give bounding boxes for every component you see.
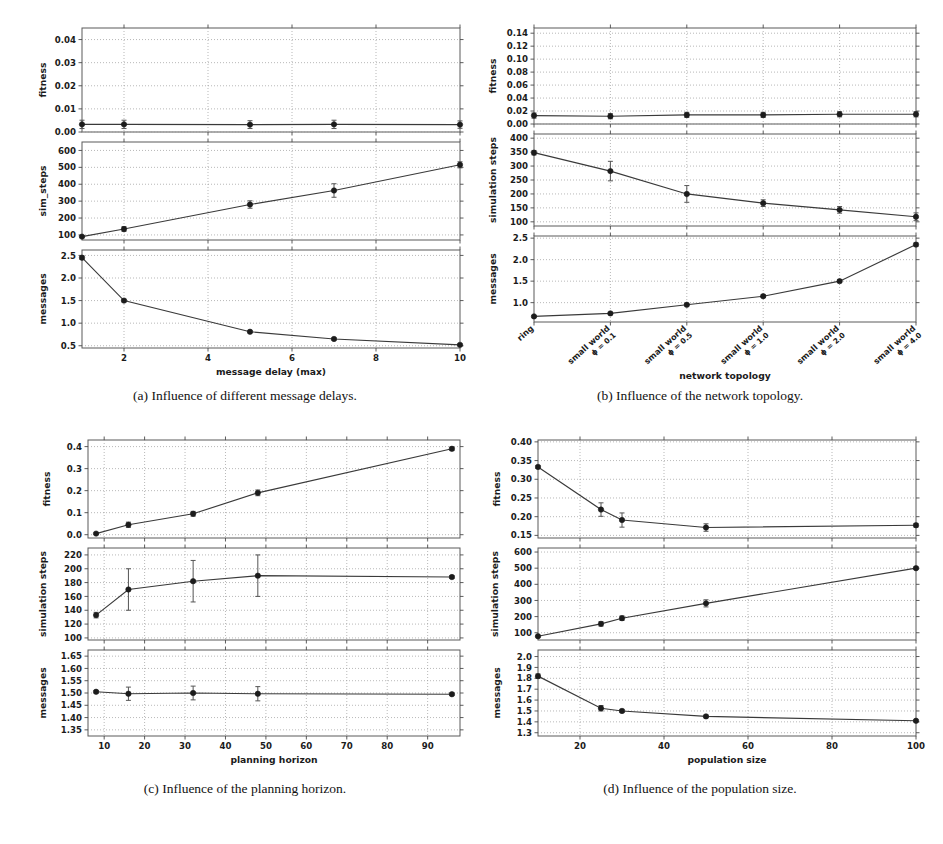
x-tick-label: 40	[658, 741, 670, 751]
y-axis-title: messages	[37, 273, 48, 325]
data-point	[619, 517, 624, 522]
data-point	[608, 114, 613, 119]
y-tick-label: 0.00	[507, 119, 528, 129]
y-tick-label: 0.12	[507, 41, 528, 51]
x-tick-label: 40	[219, 741, 231, 751]
y-tick-label: 150	[510, 203, 528, 213]
subfigure-a-caption: (a) Influence of different message delay…	[20, 388, 470, 404]
y-tick-label: 1.40	[61, 713, 82, 723]
y-tick-label: 1.5	[513, 276, 528, 286]
panel-b-fitness: 0.000.020.040.060.080.100.120.14fitness	[487, 25, 920, 130]
data-point	[535, 673, 540, 678]
y-tick-label: 600	[514, 547, 532, 557]
x-tick-label: 50	[260, 741, 272, 751]
data-point	[247, 329, 252, 334]
y-tick-label: 0.30	[511, 474, 532, 484]
y-tick-label: 0.01	[55, 104, 76, 114]
data-point	[535, 634, 540, 639]
y-tick-label: 200	[58, 213, 76, 223]
y-tick-label: 0.14	[507, 28, 528, 38]
data-point	[619, 708, 624, 713]
panel-d-fitness: 0.150.200.250.300.350.40fitness	[491, 437, 920, 542]
y-axis-title: fitness	[487, 58, 498, 93]
panel-c-messages: 1.351.401.451.501.551.601.65102030405060…	[37, 647, 464, 766]
data-point	[761, 112, 766, 117]
y-tick-label: 1.6	[517, 695, 532, 705]
y-tick-label: 300	[514, 596, 532, 606]
x-tick-label-group: ring	[515, 323, 536, 343]
y-tick-label: 0.04	[507, 93, 528, 103]
x-tick-label-group: small worldϕ = 0.1	[565, 323, 617, 373]
y-axis-title: messages	[487, 253, 498, 305]
y-tick-label: 1.60	[61, 664, 82, 674]
data-point	[79, 122, 84, 127]
x-tick-label: 20	[139, 741, 151, 751]
y-tick-label: 500	[58, 162, 76, 172]
y-tick-label: 500	[514, 563, 532, 573]
data-point	[913, 565, 918, 570]
data-point	[837, 112, 842, 117]
data-point	[703, 601, 708, 606]
x-tick-label: 4	[205, 353, 211, 363]
y-tick-label: 0.0	[67, 530, 82, 540]
x-tick-label: ring	[515, 323, 536, 343]
chart-c: 0.00.10.20.30.4fitness100120140160180200…	[20, 428, 470, 763]
y-tick-label: 1.0	[513, 298, 528, 308]
panel-d-messages: 1.31.41.51.61.71.81.92.020406080100messa…	[491, 647, 925, 766]
y-tick-label: 1.5	[61, 296, 76, 306]
y-tick-label: 350	[510, 147, 528, 157]
data-point	[837, 278, 842, 283]
data-point	[837, 207, 842, 212]
x-tick-label: 60	[742, 741, 754, 751]
y-tick-label: 100	[514, 628, 532, 638]
y-tick-label: 140	[64, 605, 82, 615]
y-tick-label: 0.2	[67, 486, 82, 496]
data-point	[93, 531, 98, 536]
y-tick-label: 100	[58, 230, 76, 240]
chart-a: 0.000.010.020.030.04fitness1002003004005…	[20, 16, 470, 366]
subfigure-b-caption: (b) Influence of the network topology.	[474, 388, 926, 404]
data-point	[598, 507, 603, 512]
data-point	[449, 692, 454, 697]
data-point	[190, 511, 195, 516]
data-point	[126, 587, 131, 592]
plot-frame	[534, 28, 916, 124]
data-point	[703, 525, 708, 530]
plot-frame	[82, 142, 460, 240]
data-point	[121, 298, 126, 303]
subfigure-c-caption: (c) Influence of the planning horizon.	[20, 781, 470, 797]
x-tick-label: 30	[179, 741, 191, 751]
y-tick-label: 400	[58, 179, 76, 189]
data-point	[703, 714, 708, 719]
y-tick-label: 0.08	[507, 67, 528, 77]
data-point	[531, 314, 536, 319]
data-point	[598, 706, 603, 711]
y-axis-title: simulation steps	[487, 137, 498, 223]
data-point	[761, 200, 766, 205]
x-tick-label: 100	[907, 741, 925, 751]
x-tick-label: 10	[454, 353, 466, 363]
data-point	[255, 490, 260, 495]
x-axis-title: network topology	[679, 370, 770, 381]
y-tick-label: 0.15	[511, 530, 532, 540]
y-tick-label: 400	[514, 579, 532, 589]
y-tick-label: 200	[64, 564, 82, 574]
x-tick-label: 80	[381, 741, 393, 751]
x-tick-label: 20	[574, 741, 586, 751]
data-point	[913, 523, 918, 528]
y-tick-label: 1.50	[61, 688, 82, 698]
panel-a-messages: 0.51.01.52.02.5246810messagesmessage del…	[37, 247, 466, 378]
data-point	[684, 302, 689, 307]
y-tick-label: 0.04	[55, 35, 76, 45]
y-tick-label: 120	[64, 619, 82, 629]
x-axis-title: population size	[687, 754, 766, 765]
panel-b-simsteps: 100150200250300350400simulation steps	[487, 131, 920, 230]
data-point	[913, 214, 918, 219]
x-tick-label-group: small worldϕ = 1.0	[718, 323, 770, 373]
y-tick-label: 1.4	[517, 717, 532, 727]
x-tick-label: 8	[373, 353, 379, 363]
plot-frame	[538, 650, 916, 736]
chart-b: 0.000.020.040.060.080.100.120.14fitness1…	[474, 16, 926, 366]
y-axis-title: sim_steps	[37, 165, 48, 216]
data-point	[531, 150, 536, 155]
